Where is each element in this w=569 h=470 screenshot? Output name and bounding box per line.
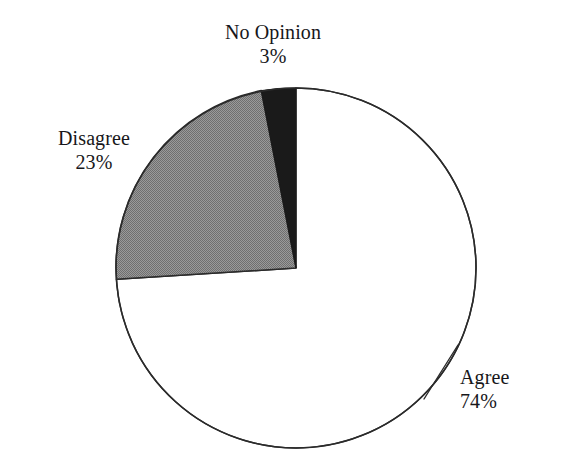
slice-label-no-opinion-value: 3% (225, 45, 321, 69)
slice-label-agree-name: Agree (460, 366, 509, 390)
slice-label-disagree-name: Disagree (58, 127, 130, 151)
slice-label-disagree: Disagree 23% (58, 127, 130, 174)
slice-label-agree: Agree 74% (460, 366, 509, 413)
pie-chart-figure: No Opinion 3% Disagree 23% Agree 74% (0, 0, 569, 470)
slice-label-agree-value: 74% (460, 390, 509, 414)
slice-label-no-opinion: No Opinion 3% (225, 21, 321, 68)
slice-label-no-opinion-name: No Opinion (225, 21, 321, 45)
slice-label-disagree-value: 23% (58, 151, 130, 175)
